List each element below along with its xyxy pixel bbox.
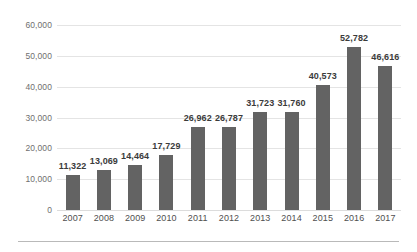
- bar-group: 46,616: [370, 0, 401, 210]
- x-axis: 2007200820092010201120122013201420152016…: [57, 214, 401, 230]
- bar-value-label: 14,464: [121, 152, 149, 161]
- y-axis-tick-label: 0: [0, 206, 52, 215]
- x-axis-tick-label: 2008: [88, 214, 119, 223]
- bar-group: 17,729: [151, 0, 182, 210]
- x-axis-tick-label: 2015: [307, 214, 338, 223]
- bar-value-label: 40,573: [309, 72, 337, 81]
- bar-group: 52,782: [338, 0, 369, 210]
- bar[interactable]: [159, 155, 173, 210]
- bar-group: 11,322: [57, 0, 88, 210]
- y-axis: 010,00020,00030,00040,00050,00060,000: [0, 0, 52, 252]
- bar-group: 26,787: [213, 0, 244, 210]
- bar-value-label: 46,616: [371, 53, 399, 62]
- x-axis-tick-label: 2013: [245, 214, 276, 223]
- bar-value-label: 52,782: [340, 34, 368, 43]
- x-axis-tick-label: 2012: [213, 214, 244, 223]
- x-axis-tick-label: 2009: [120, 214, 151, 223]
- bar[interactable]: [222, 127, 236, 210]
- x-axis-tick-label: 2014: [276, 214, 307, 223]
- y-axis-tick-label: 30,000: [0, 113, 52, 122]
- bar-value-label: 26,962: [184, 114, 212, 123]
- bar[interactable]: [316, 85, 330, 210]
- bar-value-label: 31,760: [277, 99, 305, 108]
- y-axis-tick-label: 60,000: [0, 21, 52, 30]
- y-axis-tick-label: 10,000: [0, 175, 52, 184]
- bar-value-label: 26,787: [215, 114, 243, 123]
- bar[interactable]: [97, 170, 111, 210]
- axis-baseline: [57, 210, 401, 211]
- bar-group: 31,760: [276, 0, 307, 210]
- bars-layer: 11,32213,06914,46417,72926,96226,78731,7…: [57, 0, 401, 210]
- bar-group: 13,069: [88, 0, 119, 210]
- bar-value-label: 17,729: [152, 142, 180, 151]
- y-axis-tick-label: 50,000: [0, 52, 52, 61]
- x-axis-tick-label: 2010: [151, 214, 182, 223]
- bar[interactable]: [347, 47, 361, 210]
- bar[interactable]: [253, 112, 267, 210]
- bar-group: 14,464: [120, 0, 151, 210]
- y-axis-tick-label: 20,000: [0, 144, 52, 153]
- bar[interactable]: [191, 127, 205, 210]
- bar-group: 40,573: [307, 0, 338, 210]
- x-axis-tick-label: 2017: [370, 214, 401, 223]
- bar-value-label: 31,723: [246, 99, 274, 108]
- x-axis-tick-label: 2016: [338, 214, 369, 223]
- bar[interactable]: [128, 165, 142, 210]
- bottom-divider: [18, 241, 399, 242]
- bar[interactable]: [378, 66, 392, 210]
- y-axis-tick-label: 40,000: [0, 82, 52, 91]
- x-axis-tick-label: 2007: [57, 214, 88, 223]
- bar[interactable]: [66, 175, 80, 210]
- bar-group: 26,962: [182, 0, 213, 210]
- bar-value-label: 11,322: [59, 162, 87, 171]
- bar-value-label: 13,069: [90, 157, 118, 166]
- x-axis-tick-label: 2011: [182, 214, 213, 223]
- bar-chart-figure: 010,00020,00030,00040,00050,00060,000 11…: [0, 0, 417, 252]
- bar[interactable]: [285, 112, 299, 210]
- bar-group: 31,723: [245, 0, 276, 210]
